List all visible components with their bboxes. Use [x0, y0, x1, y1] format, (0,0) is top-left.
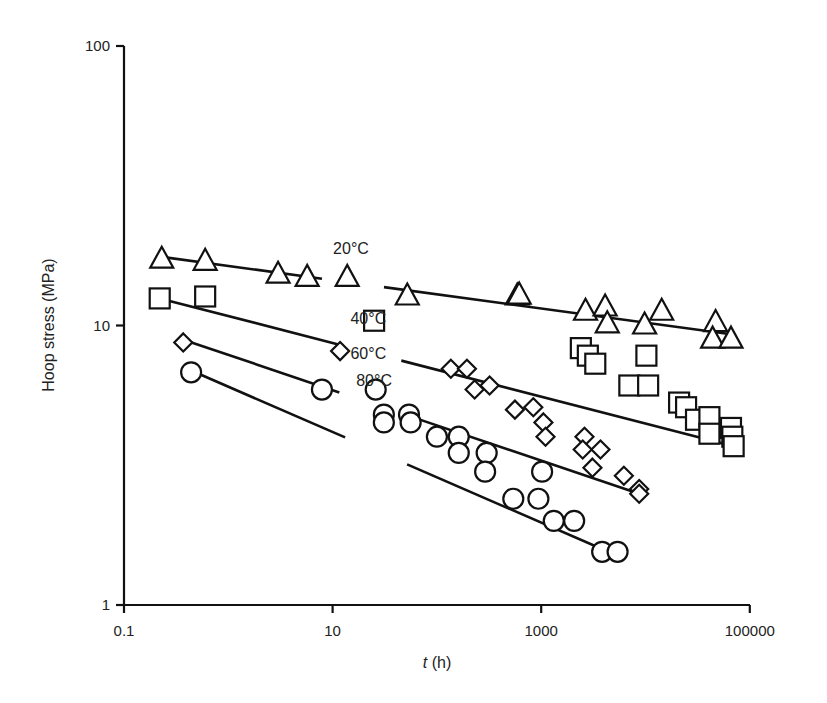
- circle-marker: [427, 427, 447, 447]
- x-tick-label: 1000: [525, 622, 558, 639]
- diamond-marker: [466, 381, 484, 399]
- square-marker: [195, 286, 215, 306]
- square-marker: [585, 354, 605, 374]
- fit-line: [384, 287, 731, 334]
- diamond-marker: [331, 342, 349, 360]
- square-marker: [150, 288, 170, 308]
- triangle-marker: [704, 310, 727, 331]
- circle-marker: [544, 511, 564, 531]
- diamond-marker: [481, 377, 499, 395]
- x-tick-label: 10: [324, 622, 341, 639]
- x-tick-label: 0.1: [114, 622, 135, 639]
- y-tick-label: 1: [102, 596, 110, 613]
- diamond-marker: [506, 401, 524, 419]
- diamond-marker: [583, 459, 601, 477]
- creep-rupture-chart: 110100 0.1101000100000 Hoop stress (MPa)…: [0, 0, 827, 703]
- square-marker: [699, 424, 719, 444]
- circle-marker: [608, 542, 628, 562]
- fit-line: [407, 464, 617, 555]
- triangle-marker: [594, 294, 617, 315]
- circle-marker: [477, 443, 497, 463]
- x-tick-label: 100000: [725, 622, 775, 639]
- diamond-marker: [591, 441, 609, 459]
- x-ticks: 0.1101000100000: [114, 605, 775, 639]
- y-ticks: 110100: [85, 37, 124, 613]
- triangle-marker: [574, 299, 597, 320]
- square-marker: [619, 376, 639, 396]
- circle-marker: [528, 489, 548, 509]
- diamond-marker: [537, 428, 555, 446]
- circle-marker: [532, 462, 552, 482]
- triangle-marker: [396, 283, 419, 304]
- triangle-marker: [336, 265, 359, 286]
- series-20c: 20°C: [150, 240, 742, 348]
- diamond-marker: [524, 398, 542, 416]
- series-80c: 80°C: [181, 362, 627, 561]
- series-label: 20°C: [333, 240, 369, 257]
- y-axis-title: Hoop stress (MPa): [40, 258, 57, 391]
- circle-marker: [564, 511, 584, 531]
- diamond-marker: [174, 333, 192, 351]
- diamond-marker: [574, 441, 592, 459]
- y-tick-label: 10: [93, 317, 110, 334]
- circle-marker: [503, 489, 523, 509]
- square-marker: [724, 436, 744, 456]
- series-label: 80°C: [356, 372, 392, 389]
- circle-marker: [449, 443, 469, 463]
- square-marker: [638, 376, 658, 396]
- fit-line: [162, 257, 322, 279]
- circle-marker: [475, 462, 495, 482]
- circle-marker: [374, 412, 394, 432]
- x-axis-title: t (h): [423, 654, 451, 671]
- y-tick-label: 100: [85, 37, 110, 54]
- circle-marker: [401, 412, 421, 432]
- triangle-marker: [194, 249, 217, 270]
- square-marker: [636, 346, 656, 366]
- triangle-marker: [650, 299, 673, 320]
- series-label: 60°C: [350, 345, 386, 362]
- series-label: 40°C: [350, 310, 386, 327]
- circle-marker: [181, 362, 201, 382]
- series-layer: 20°C40°C60°C80°C: [150, 240, 744, 562]
- circle-marker: [312, 380, 332, 400]
- diamond-marker: [615, 467, 633, 485]
